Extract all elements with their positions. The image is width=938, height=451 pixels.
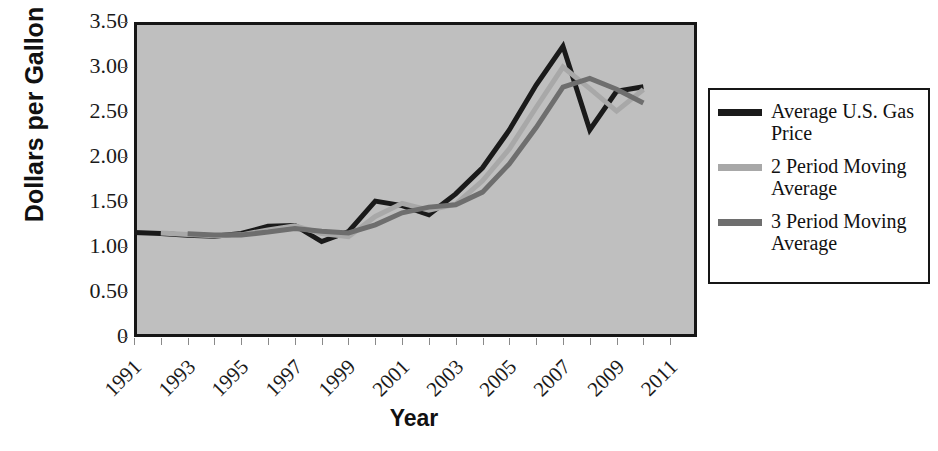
x-tick-mark xyxy=(509,338,510,345)
x-tick-mark xyxy=(402,338,403,345)
legend-item[interactable]: 3 Period Moving Average xyxy=(718,210,920,255)
x-tick-label: 1999 xyxy=(307,355,361,409)
legend-color-swatch xyxy=(718,164,762,171)
x-tick-label: 1993 xyxy=(146,355,200,409)
x-tick-label: 2003 xyxy=(414,355,468,409)
x-tick-mark xyxy=(214,338,215,345)
x-tick-label: 2007 xyxy=(521,355,575,409)
legend-label: 3 Period Moving Average xyxy=(771,210,920,255)
x-tick-mark xyxy=(670,338,671,345)
x-tick-label: 1991 xyxy=(92,355,146,409)
x-tick-mark xyxy=(188,338,189,345)
x-tick-label: 2001 xyxy=(360,355,414,409)
legend-item[interactable]: 2 Period Moving Average xyxy=(718,155,920,200)
x-tick-label: 2009 xyxy=(575,355,629,409)
x-tick-mark xyxy=(322,338,323,345)
chart-legend: Average U.S. Gas Price2 Period Moving Av… xyxy=(708,88,930,284)
legend-label: Average U.S. Gas Price xyxy=(771,100,920,145)
legend-item[interactable]: Average U.S. Gas Price xyxy=(718,100,920,145)
x-tick-mark xyxy=(643,338,644,345)
x-tick-mark xyxy=(563,338,564,345)
x-tick-label: 2011 xyxy=(629,355,683,409)
x-tick-mark xyxy=(241,338,242,345)
x-tick-mark xyxy=(295,338,296,345)
x-tick-mark xyxy=(590,338,591,345)
x-tick-mark xyxy=(617,338,618,345)
legend-color-swatch xyxy=(718,219,762,226)
x-tick-mark xyxy=(348,338,349,345)
x-tick-mark xyxy=(375,338,376,345)
x-axis-title: Year xyxy=(334,405,494,432)
legend-label: 2 Period Moving Average xyxy=(771,155,920,200)
x-tick-mark xyxy=(456,338,457,345)
legend-color-swatch xyxy=(718,109,762,116)
x-tick-mark xyxy=(161,338,162,345)
x-tick-mark xyxy=(268,338,269,345)
x-tick-label: 1997 xyxy=(253,355,307,409)
x-tick-label: 1995 xyxy=(200,355,254,409)
x-tick-mark xyxy=(134,338,135,345)
gas-price-line-chart: Dollars per Gallon 3.503.002.502.001.501… xyxy=(0,0,938,451)
x-tick-mark xyxy=(429,338,430,345)
x-tick-label: 2005 xyxy=(468,355,522,409)
x-tick-mark xyxy=(536,338,537,345)
x-tick-mark xyxy=(483,338,484,345)
